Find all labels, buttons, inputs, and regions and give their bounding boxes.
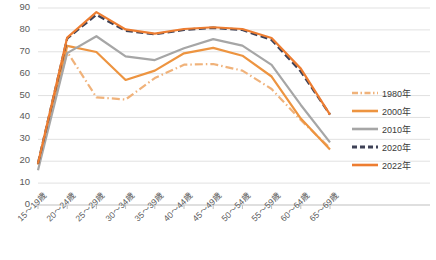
y-axis-tick-label: 60 bbox=[0, 67, 30, 78]
y-axis-tick-label: 40 bbox=[0, 110, 30, 121]
series-line-1980年 bbox=[38, 52, 330, 165]
series-lines bbox=[38, 12, 330, 170]
legend-swatch-icon bbox=[352, 88, 378, 98]
legend-item-2022年[interactable]: 2022年 bbox=[352, 156, 436, 174]
y-axis-tick-label: 30 bbox=[0, 132, 30, 143]
legend-swatch-icon bbox=[352, 124, 378, 134]
legend-swatch-icon bbox=[352, 142, 378, 152]
legend-item-2020年[interactable]: 2020年 bbox=[352, 138, 436, 156]
y-axis-tick-label: 10 bbox=[0, 176, 30, 187]
chart-legend: 1980年2000年2010年2020年2022年 bbox=[352, 84, 436, 174]
legend-item-2010年[interactable]: 2010年 bbox=[352, 120, 436, 138]
y-axis-tick-label: 50 bbox=[0, 89, 30, 100]
legend-item-2000年[interactable]: 2000年 bbox=[352, 102, 436, 120]
y-axis-tick-label: 20 bbox=[0, 154, 30, 165]
legend-swatch-icon bbox=[352, 106, 378, 116]
y-axis-tick-label: 70 bbox=[0, 45, 30, 56]
legend-swatch-icon bbox=[352, 160, 378, 170]
y-axis-tick-label: 80 bbox=[0, 23, 30, 34]
series-line-2022年 bbox=[38, 12, 330, 163]
legend-label: 2020年 bbox=[382, 141, 411, 154]
line-chart: 0102030405060708090 15～19歳20～24歳25～29歳30… bbox=[0, 0, 436, 260]
legend-label: 1980年 bbox=[382, 87, 411, 100]
y-axis-tick-label: 90 bbox=[0, 1, 30, 12]
legend-label: 2000年 bbox=[382, 105, 411, 118]
legend-label: 2010年 bbox=[382, 123, 411, 136]
series-line-2020年 bbox=[38, 15, 330, 164]
legend-item-1980年[interactable]: 1980年 bbox=[352, 84, 436, 102]
legend-label: 2022年 bbox=[382, 159, 411, 172]
